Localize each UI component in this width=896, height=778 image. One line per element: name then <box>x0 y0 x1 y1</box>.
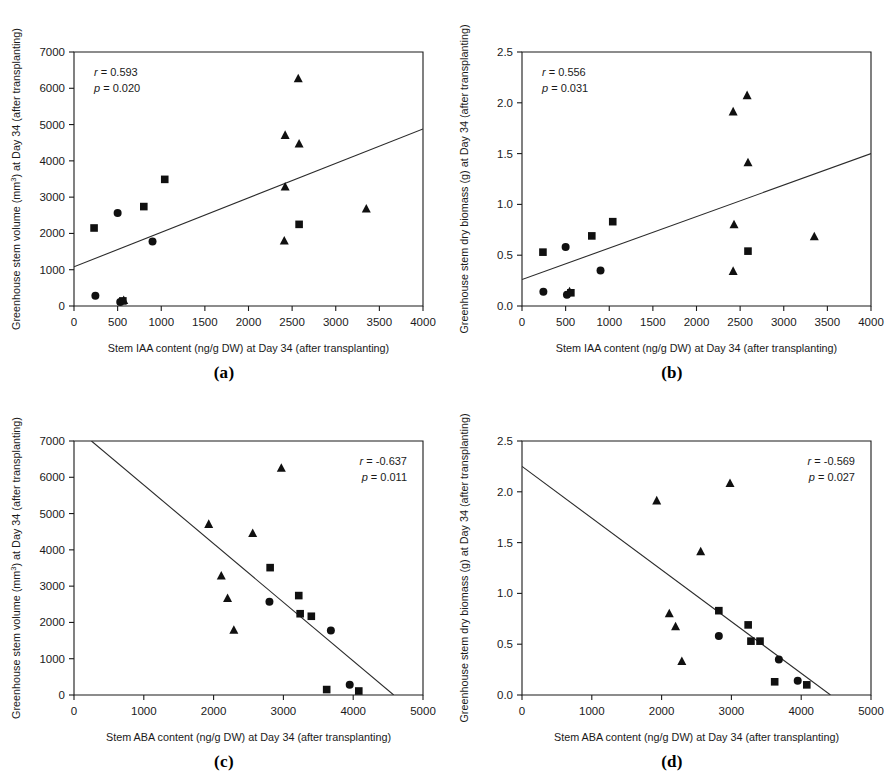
stats-annotation: r = 0.593p = 0.020 <box>93 66 140 94</box>
data-point-circle <box>265 598 273 606</box>
data-point-circle <box>539 288 547 296</box>
data-point-square <box>609 218 617 226</box>
x-tick-label: 2500 <box>279 316 305 328</box>
data-point-triangle <box>696 547 705 556</box>
stats-annotation: r = -0.637p = 0.011 <box>360 455 407 483</box>
x-tick-label: 3000 <box>323 316 349 328</box>
y-tick-label: 1.0 <box>497 587 513 599</box>
scatter-plot-a: 0500100015002000250030003500400001000200… <box>0 0 448 389</box>
regression-line <box>522 466 831 695</box>
data-point-triangle <box>281 182 290 191</box>
panel-letter-c: (c) <box>0 752 448 772</box>
data-point-circle <box>794 677 802 685</box>
data-point-circle <box>715 632 723 640</box>
x-tick-label: 3000 <box>271 705 297 717</box>
y-tick-label: 3000 <box>39 191 65 203</box>
x-tick-label: 500 <box>556 316 575 328</box>
data-point-square <box>744 621 752 629</box>
data-point-triangle <box>677 656 686 665</box>
data-point-square <box>588 232 596 240</box>
data-point-square <box>803 681 811 689</box>
data-point-triangle <box>743 158 752 167</box>
x-tick-label: 4000 <box>788 705 814 717</box>
data-point-square <box>90 224 98 232</box>
data-point-circle <box>562 243 570 251</box>
scatter-plot-d: 0100020003000400050000.00.51.01.52.02.5r… <box>448 389 896 778</box>
data-point-square <box>771 678 779 686</box>
y-tick-label: 6000 <box>39 471 65 483</box>
x-tick-label: 1500 <box>640 316 666 328</box>
x-axis: 010002000300040005000 <box>71 695 436 717</box>
y-tick-label: 0.5 <box>497 249 513 261</box>
x-tick-label: 1500 <box>192 316 218 328</box>
data-point-square <box>744 247 752 255</box>
y-axis-title: Greenhouse stem volume (mm3) at Day 34 (… <box>9 28 23 330</box>
x-axis: 010002000300040005000 <box>519 695 884 717</box>
data-point-square <box>295 592 303 600</box>
panel-c: 0100020003000400050000100020003000400050… <box>0 389 448 778</box>
data-point-circle <box>91 292 99 300</box>
data-point-triangle <box>362 204 371 213</box>
x-tick-label: 0 <box>71 705 77 717</box>
data-point-square <box>756 637 764 645</box>
y-axis-title: Greenhouse stem dry biomass (g) at Day 3… <box>458 413 470 722</box>
x-tick-label: 0 <box>71 316 77 328</box>
panel-a: 0500100015002000250030003500400001000200… <box>0 0 448 389</box>
data-points <box>652 479 810 689</box>
x-tick-label: 3000 <box>771 316 797 328</box>
x-tick-label: 0 <box>519 316 525 328</box>
data-point-circle <box>327 626 335 634</box>
x-tick-label: 3500 <box>367 316 393 328</box>
data-point-triangle <box>665 609 674 618</box>
stats-annotation: r = 0.556p = 0.031 <box>541 66 588 94</box>
y-tick-label: 2.5 <box>497 46 513 58</box>
x-axis-title: Stem IAA content (ng/g DW) at Day 34 (af… <box>556 342 837 354</box>
panel-letter-d: (d) <box>448 752 896 772</box>
y-tick-label: 1.5 <box>497 148 513 160</box>
data-points <box>204 463 362 695</box>
data-point-square <box>323 686 331 694</box>
x-tick-label: 4000 <box>340 705 366 717</box>
data-point-square <box>295 221 303 229</box>
x-tick-label: 5000 <box>858 705 884 717</box>
data-point-square <box>266 564 274 572</box>
x-tick-label: 2000 <box>236 316 262 328</box>
data-point-circle <box>597 266 605 274</box>
x-axis: 05001000150020002500300035004000 <box>71 306 436 328</box>
x-tick-label: 3500 <box>815 316 841 328</box>
y-axis: 0.00.51.01.52.02.5 <box>497 435 522 701</box>
y-tick-label: 4000 <box>39 544 65 556</box>
y-tick-label: 1.0 <box>497 198 513 210</box>
x-axis: 05001000150020002500300035004000 <box>519 306 884 328</box>
data-point-square <box>308 612 316 620</box>
x-tick-label: 3000 <box>719 705 745 717</box>
y-tick-label: 4000 <box>39 155 65 167</box>
data-point-triangle <box>204 519 213 528</box>
y-axis: 01000200030004000500060007000 <box>39 435 74 701</box>
panel-letter-b: (b) <box>448 363 896 383</box>
data-point-circle <box>346 681 354 689</box>
data-point-triangle <box>730 220 739 229</box>
y-axis-title: Greenhouse stem dry biomass (g) at Day 3… <box>458 24 470 333</box>
data-point-triangle <box>294 74 303 83</box>
x-tick-label: 2000 <box>201 705 227 717</box>
data-point-square <box>747 637 755 645</box>
data-point-square <box>296 610 304 618</box>
correlation-r-label: r = -0.569 <box>808 455 855 467</box>
y-tick-label: 7000 <box>39 435 65 447</box>
y-tick-label: 1.5 <box>497 537 513 549</box>
data-point-square <box>539 248 547 256</box>
x-tick-label: 2000 <box>649 705 675 717</box>
data-point-circle <box>114 209 122 217</box>
x-axis-title: Stem ABA content (ng/g DW) at Day 34 (af… <box>106 731 391 743</box>
correlation-r-label: r = -0.637 <box>360 455 407 467</box>
x-axis-title: Stem IAA content (ng/g DW) at Day 34 (af… <box>108 342 389 354</box>
x-tick-label: 4000 <box>858 316 884 328</box>
y-tick-label: 5000 <box>39 508 65 520</box>
x-tick-label: 5000 <box>410 705 436 717</box>
y-tick-label: 7000 <box>39 46 65 58</box>
y-tick-label: 0 <box>59 689 65 701</box>
p-value-label: p = 0.027 <box>808 471 855 483</box>
y-tick-label: 0.0 <box>497 689 513 701</box>
data-point-square <box>140 203 148 211</box>
